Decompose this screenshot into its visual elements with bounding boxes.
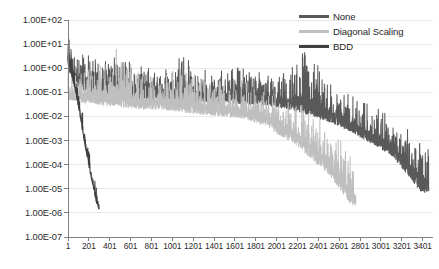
legend-swatch-none (299, 15, 329, 18)
y-axis-tick-label: 1.00E-01 (0, 87, 62, 97)
x-axis-tick-label: 1 (66, 241, 71, 252)
x-axis-tick-label: 2001 (268, 241, 286, 252)
y-axis-tick-label: 1.00E-02 (0, 111, 62, 121)
legend-item-none: None (299, 9, 437, 24)
x-axis-tick-label: 2201 (288, 241, 306, 252)
x-axis-tick-label: 1001 (163, 241, 181, 252)
y-axis-tick-label: 1.00E+02 (0, 15, 62, 25)
legend-label-bdd: BDD (333, 41, 353, 52)
x-axis-tick-label: 3201 (393, 241, 411, 252)
legend-item-diagonal-scaling: Diagonal Scaling (299, 24, 437, 39)
x-axis-tick-label: 601 (124, 241, 138, 252)
x-axis-tick-label: 1401 (205, 241, 223, 252)
x-axis-tick-label: 3401 (414, 241, 432, 252)
y-axis-tick-label: 1.00E-04 (0, 160, 62, 170)
y-axis-tick-label: 1.00E-05 (0, 184, 62, 194)
x-axis-tick-label: 1201 (184, 241, 202, 252)
x-axis-labels: 1201401601801100112011401160118012001220… (68, 241, 433, 257)
series-paths (68, 40, 429, 209)
y-axis-tick-label: 1.00E+01 (0, 39, 62, 49)
x-axis-tick-label: 2601 (330, 241, 348, 252)
x-axis-tick-label: 1801 (247, 241, 265, 252)
legend-label-diagonal-scaling: Diagonal Scaling (333, 26, 403, 37)
x-axis-tick-label: 801 (145, 241, 159, 252)
chart-legend: None Diagonal Scaling BDD (299, 9, 437, 54)
y-axis-tick-label: 1.00E+00 (0, 63, 62, 73)
chart-container: 1.00E+021.00E+011.00E+001.00E-011.00E-02… (0, 0, 439, 269)
x-axis-tick-label: 201 (82, 241, 96, 252)
x-axis-tick-label: 2401 (309, 241, 327, 252)
y-axis-tick-label: 1.00E-03 (0, 136, 62, 146)
x-axis-tick-label: 1601 (226, 241, 244, 252)
legend-label-none: None (333, 11, 356, 22)
legend-swatch-diagonal-scaling (299, 30, 329, 33)
x-axis-tick-label: 401 (103, 241, 117, 252)
y-axis-tick-label: 1.00E-06 (0, 208, 62, 218)
y-axis-tick-label: 1.00E-07 (0, 232, 62, 242)
legend-item-bdd: BDD (299, 39, 437, 54)
x-axis-tick-label: 2801 (351, 241, 369, 252)
legend-swatch-bdd (299, 45, 329, 48)
y-axis-labels: 1.00E+021.00E+011.00E+001.00E-011.00E-02… (0, 20, 62, 238)
x-axis-tick-label: 3001 (372, 241, 390, 252)
